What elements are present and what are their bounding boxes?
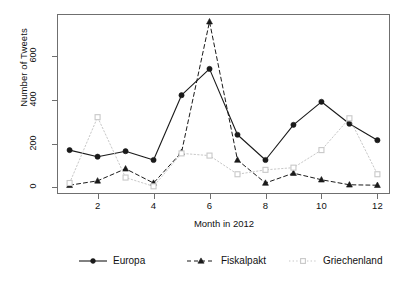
series-line — [70, 69, 378, 160]
legend-item-fiskalpakt[interactable]: Fiskalpakt — [186, 252, 266, 270]
data-point — [207, 66, 212, 71]
y-tick-label: 600 — [28, 40, 38, 70]
series-line — [70, 117, 378, 186]
data-point — [235, 157, 241, 163]
legend-item-griechenland[interactable]: Griechenland — [288, 252, 382, 270]
data-point — [375, 172, 380, 177]
data-point — [151, 184, 156, 189]
x-axis-title: Month in 2012 — [57, 218, 391, 229]
legend-item-europa[interactable]: Europa — [78, 252, 145, 270]
x-tick-mark — [210, 194, 211, 199]
data-point — [319, 99, 324, 104]
data-point — [95, 154, 100, 159]
data-point — [375, 138, 380, 143]
y-tick-mark — [52, 56, 57, 57]
series-griechenland — [67, 115, 380, 189]
data-point — [291, 165, 296, 170]
x-tick-label: 6 — [200, 200, 220, 211]
x-tick-label: 4 — [144, 200, 164, 211]
y-axis-title: Number of Tweets — [18, 3, 29, 133]
y-tick-mark — [52, 144, 57, 145]
x-tick-mark — [377, 194, 378, 199]
data-point — [123, 175, 128, 180]
series-line — [70, 22, 378, 186]
data-point — [151, 157, 156, 162]
data-point — [207, 153, 212, 158]
x-tick-label: 2 — [88, 200, 108, 211]
data-point — [67, 148, 72, 153]
legend-marker-icon — [78, 255, 108, 267]
legend-label: Griechenland — [323, 256, 382, 266]
data-point — [123, 149, 128, 154]
data-point — [263, 157, 268, 162]
series-europa — [67, 66, 380, 162]
data-point — [95, 115, 100, 120]
y-tick-label: 0 — [28, 171, 38, 201]
y-tick-mark — [52, 187, 57, 188]
plot-area — [57, 14, 390, 194]
data-point — [291, 170, 297, 176]
x-tick-label: 10 — [311, 200, 331, 211]
data-point — [67, 181, 72, 186]
data-point — [235, 172, 240, 177]
x-tick-mark — [321, 194, 322, 199]
chart-figure: Number of Tweets 0200400600 24681012 Mon… — [0, 0, 406, 287]
data-point — [319, 148, 324, 153]
data-point — [291, 122, 296, 127]
legend-label: Fiskalpakt — [221, 256, 266, 266]
data-point — [179, 93, 184, 98]
y-tick-mark — [52, 100, 57, 101]
y-tick-label: 200 — [28, 128, 38, 158]
x-tick-mark — [98, 194, 99, 199]
data-point — [207, 18, 213, 24]
y-tick-label: 400 — [28, 84, 38, 114]
data-point — [263, 167, 268, 172]
legend-marker-icon — [186, 255, 216, 267]
data-point — [235, 132, 240, 137]
legend-label: Europa — [113, 256, 145, 266]
x-tick-label: 12 — [367, 200, 387, 211]
chart-legend: EuropaFiskalpaktGriechenland — [0, 252, 406, 274]
x-tick-mark — [154, 194, 155, 199]
x-tick-label: 8 — [256, 200, 276, 211]
data-point — [347, 116, 352, 121]
data-point — [179, 151, 184, 156]
data-point — [123, 166, 129, 172]
x-tick-mark — [266, 194, 267, 199]
legend-marker-icon — [288, 255, 318, 267]
